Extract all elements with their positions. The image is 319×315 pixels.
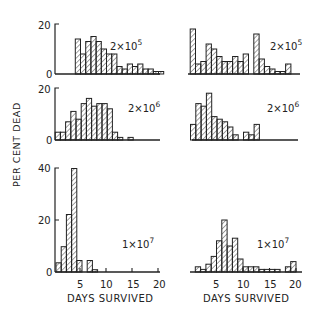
histogram-bar: [60, 132, 65, 140]
histogram-bar: [270, 69, 275, 74]
histogram-bar: [232, 238, 237, 272]
y-axis-row3: [55, 168, 59, 272]
histogram-bar: [217, 119, 222, 140]
histogram-bar: [86, 42, 91, 75]
histogram-bar: [91, 37, 96, 75]
histogram-bar: [86, 98, 91, 140]
histogram-bar: [217, 241, 222, 272]
histogram-bar: [76, 119, 81, 140]
histogram-bar: [196, 104, 201, 140]
panel-bottom-left: 1×107: [55, 169, 160, 273]
histogram-bar: [291, 262, 296, 272]
histogram-bar: [138, 64, 143, 74]
dose-label: 2×105: [110, 38, 142, 52]
histogram-bar: [122, 69, 127, 74]
histogram-bar: [196, 64, 201, 74]
x-tick-right-10: 10: [237, 279, 250, 290]
histogram-bar: [244, 132, 249, 140]
histogram-bar: [87, 261, 92, 273]
histogram-bar: [211, 49, 216, 74]
x-tick-left-10: 10: [100, 279, 113, 290]
histogram-bar: [222, 220, 227, 272]
panel-top-left: 2×105: [55, 37, 164, 75]
x-tick-left-20: 20: [153, 279, 166, 290]
histogram-bar: [191, 124, 196, 140]
dose-label: 2×105: [270, 38, 302, 52]
histogram-bar: [233, 57, 238, 75]
histogram-bar: [56, 263, 61, 272]
x-axis-label-left: DAYS SURVIVED: [67, 293, 153, 304]
histogram-bar: [222, 122, 227, 140]
histogram-bar: [112, 54, 117, 74]
histogram-bar: [227, 246, 232, 272]
histogram-bar: [81, 104, 86, 140]
histogram-bar: [66, 215, 71, 273]
histogram-bar: [222, 62, 227, 75]
y-tick-row1-20: 20: [38, 20, 51, 31]
histogram-bar: [190, 29, 195, 74]
y-axis-row1: [55, 24, 59, 74]
histogram-bar: [264, 67, 269, 75]
dose-label: 1×107: [257, 236, 289, 250]
histogram-bar: [254, 124, 259, 140]
x-tick-right-15: 15: [264, 279, 277, 290]
y-tick-row3-40: 40: [38, 163, 51, 174]
histogram-bar: [259, 59, 264, 74]
histogram-bar: [97, 104, 102, 140]
x-axis-label-right: DAYS SURVIVED: [203, 293, 289, 304]
histogram-bar: [71, 111, 76, 140]
histogram-bar: [107, 109, 112, 140]
dose-label: 1×107: [122, 236, 154, 250]
histogram-bar: [127, 64, 132, 74]
histogram-bar: [72, 169, 77, 273]
histogram-bar: [201, 106, 206, 140]
histogram-bar: [217, 57, 222, 75]
histogram-bar: [77, 261, 82, 273]
histogram-bar: [92, 106, 97, 140]
histogram-bar: [254, 267, 259, 272]
histogram-bar: [81, 54, 86, 74]
histogram-bar: [212, 117, 217, 140]
x-tick-right-5: 5: [213, 279, 219, 290]
histogram-bar: [206, 93, 211, 140]
histogram-bar: [285, 267, 290, 272]
histogram-bar: [248, 267, 253, 272]
histogram-bar: [96, 42, 101, 75]
histogram-bar: [101, 49, 106, 74]
x-tick-left-15: 15: [127, 279, 140, 290]
y-axis-label: PER CENT DEAD: [11, 102, 22, 187]
histogram-bar: [233, 135, 238, 140]
panel-middle-left: 2×106: [55, 98, 160, 140]
x-tick-left-5: 5: [77, 279, 83, 290]
histogram-bar: [206, 264, 211, 272]
histogram-bar: [206, 44, 211, 74]
histogram-bar: [238, 259, 243, 272]
histogram-bar: [102, 104, 107, 140]
histogram-bar: [143, 69, 148, 74]
histogram-bar: [112, 132, 117, 140]
dose-label: 2×106: [267, 100, 299, 114]
histogram-bar: [249, 135, 254, 140]
histogram-bar: [107, 54, 112, 74]
histogram-bar: [66, 122, 71, 140]
histogram-bar: [254, 34, 259, 74]
survival-histogram-figure: PER CENT DEAD 2×105 2×105 2×106 2×106 1×…: [0, 0, 319, 315]
histogram-bar: [75, 39, 80, 74]
histogram-bar: [55, 132, 60, 140]
y-tick-row3-20: 20: [38, 215, 51, 226]
histogram-bar: [243, 54, 248, 74]
dose-label: 2×106: [128, 100, 160, 114]
histogram-bar: [117, 67, 122, 75]
histogram-bar: [211, 256, 216, 272]
histogram-bar: [286, 64, 291, 74]
y-tick-row3-0: 0: [46, 267, 52, 278]
histogram-bar: [243, 267, 248, 272]
histogram-bar: [61, 247, 66, 272]
histogram-bar: [201, 62, 206, 75]
panel-middle-right: 2×106: [191, 93, 300, 140]
histogram-bar: [227, 62, 232, 75]
panel-top-right: 2×105: [188, 29, 302, 74]
y-tick-row2-20: 20: [38, 84, 51, 95]
histogram-bar: [228, 127, 233, 140]
x-tick-right-20: 20: [289, 279, 302, 290]
